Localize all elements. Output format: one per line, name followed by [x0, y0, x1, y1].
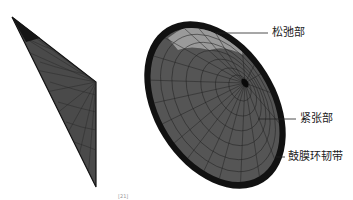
label-pars-tensa: 紧张部	[300, 113, 333, 124]
citation-mark: [21]	[118, 193, 128, 199]
label-pars-flaccida: 松弛部	[272, 27, 305, 38]
side-view-mesh	[12, 17, 96, 187]
label-annular-ligament: 鼓膜环韧带	[288, 151, 343, 162]
